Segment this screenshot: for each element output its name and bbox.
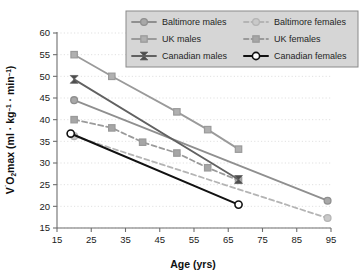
data-point-marker-square [174, 109, 180, 115]
y-tick-label: 25 [39, 179, 50, 190]
data-point-marker-circle [324, 197, 331, 204]
y-tick-label: 30 [39, 157, 50, 168]
y-tick-label: 45 [39, 92, 50, 103]
x-tick-label: 95 [326, 234, 337, 245]
legend-item-label: UK females [274, 34, 321, 44]
x-tick-label: 45 [154, 234, 165, 245]
legend-item-uk-females[interactable]: UK females [244, 34, 321, 44]
data-point-marker-square [205, 126, 211, 132]
legend-item-label: Canadian females [274, 51, 347, 61]
x-tick-label: 25 [86, 234, 97, 245]
x-tick-label: 15 [52, 234, 63, 245]
y-tick-label: 55 [39, 49, 50, 60]
x-axis-tick-labels: 152535455565758595 [52, 234, 337, 245]
data-point-marker-square [205, 165, 211, 171]
x-tick-label: 35 [120, 234, 131, 245]
legend-item-label: Baltimore females [274, 17, 347, 27]
y-tick-label: 50 [39, 71, 50, 82]
y-tick-label: 15 [39, 222, 50, 233]
legend-item-canadian-males[interactable]: Canadian males [132, 51, 228, 61]
legend-item-uk-males[interactable]: UK males [132, 34, 202, 44]
x-tick-label: 55 [189, 234, 200, 245]
data-point-marker-square [109, 125, 115, 131]
data-point-marker-square [71, 51, 77, 57]
chart-figure: 15202530354045505560 152535455565758595 … [0, 0, 360, 273]
legend-item-label: Canadian males [162, 51, 228, 61]
legend-item-label: Baltimore males [162, 17, 227, 27]
data-point-marker-open-circle [252, 52, 259, 59]
vo2max-vs-age-line-chart: 15202530354045505560 152535455565758595 … [0, 0, 360, 273]
chart-legend: Baltimore malesBaltimore femalesUK males… [126, 11, 358, 67]
data-point-marker-square [253, 36, 259, 42]
x-tick-label: 75 [257, 234, 268, 245]
x-tick-label: 65 [223, 234, 234, 245]
legend-item-label: UK males [162, 34, 202, 44]
data-point-marker-circle [324, 215, 331, 222]
y-tick-label: 35 [39, 136, 50, 147]
data-point-marker-circle [253, 19, 260, 26]
data-point-marker-square [71, 116, 77, 122]
data-point-marker-square [174, 150, 180, 156]
data-point-marker-square [139, 139, 145, 145]
data-point-marker-open-circle [235, 201, 242, 208]
data-point-marker-open-circle [67, 130, 74, 137]
y-tick-label: 40 [39, 114, 50, 125]
x-axis-title: Age (yrs) [170, 258, 216, 270]
data-point-marker-square [109, 73, 115, 79]
data-point-marker-square [235, 146, 241, 152]
y-tick-label: 60 [39, 27, 50, 38]
data-point-marker-circle [141, 19, 148, 26]
x-tick-label: 85 [291, 234, 302, 245]
y-tick-label: 20 [39, 201, 50, 212]
data-point-marker-circle [71, 97, 78, 104]
data-point-marker-square [141, 36, 147, 42]
